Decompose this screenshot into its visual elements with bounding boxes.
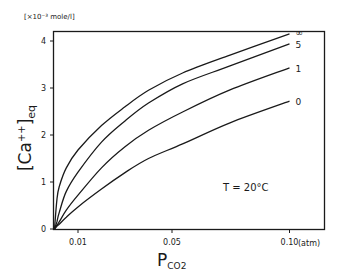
x-tick-label: 0.10 xyxy=(281,238,299,247)
curve-label: 1 xyxy=(296,64,302,74)
curve-label: 5 xyxy=(296,40,302,50)
x-axis-title: PCO2 xyxy=(157,250,186,271)
plot-frame xyxy=(54,32,325,230)
y-tick-label: 3 xyxy=(41,84,46,93)
y-unit-label: [×10⁻³ mole/l] xyxy=(24,13,75,21)
y-tick-label: 4 xyxy=(41,37,46,46)
curve-0 xyxy=(55,101,290,229)
curve-infinity xyxy=(55,34,290,229)
y-tick-label: 2 xyxy=(41,131,46,140)
chart: 01234 0.010.050.10 ∞510 [×10⁻³ mole/l] (… xyxy=(0,0,341,277)
x-unit-label: (atm) xyxy=(298,239,320,248)
curve-labels: ∞510 xyxy=(296,28,304,107)
y-tick-label: 1 xyxy=(41,178,46,187)
x-tick-label: 0.01 xyxy=(69,238,87,247)
curve-label: 0 xyxy=(296,97,302,107)
y-axis-ticks: 01234 xyxy=(41,37,54,234)
x-axis-ticks: 0.010.050.10 xyxy=(69,230,298,248)
x-tick-label: 0.05 xyxy=(163,238,181,247)
temperature-annotation: T = 20°C xyxy=(222,182,269,193)
y-tick-label: 0 xyxy=(41,225,46,234)
y-axis-title: [Ca++]eq xyxy=(15,105,38,171)
curves xyxy=(55,34,290,229)
curve-label: ∞ xyxy=(296,28,304,38)
svg-text:[Ca++]eq: [Ca++]eq xyxy=(15,105,38,171)
